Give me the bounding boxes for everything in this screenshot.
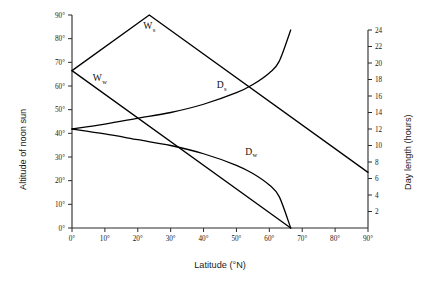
curve-Dw — [72, 129, 291, 228]
chart-svg: 0°10°20°30°40°50°60°70°80°90° 0°10°20°30… — [0, 0, 432, 283]
x-axis-title: Latitude (°N) — [194, 260, 246, 270]
y-axis-right-title: Day length (hours) — [403, 114, 413, 190]
svg-text:40°: 40° — [55, 130, 65, 138]
right-axis-tick-labels: 24681012141618202224 — [375, 27, 383, 217]
svg-text:90°: 90° — [363, 235, 373, 243]
svg-text:16: 16 — [375, 93, 383, 101]
svg-text:80°: 80° — [330, 235, 340, 243]
svg-text:70°: 70° — [55, 59, 65, 67]
svg-text:12: 12 — [375, 126, 383, 134]
svg-text:0°: 0° — [59, 225, 66, 233]
right-axis-ticks — [368, 30, 372, 212]
svg-text:24: 24 — [375, 27, 383, 35]
curve-labels: WsWwDsDw — [93, 20, 258, 158]
svg-text:30°: 30° — [166, 235, 176, 243]
svg-text:10°: 10° — [55, 201, 65, 209]
svg-text:10°: 10° — [100, 235, 110, 243]
bottom-axis-ticks — [72, 228, 368, 232]
left-axis-ticks — [68, 15, 72, 228]
left-axis-tick-labels: 0°10°20°30°40°50°60°70°80°90° — [55, 12, 65, 233]
svg-text:2: 2 — [375, 208, 379, 216]
svg-text:22: 22 — [375, 43, 383, 51]
svg-text:18: 18 — [375, 76, 383, 84]
svg-text:14: 14 — [375, 109, 383, 117]
svg-text:0°: 0° — [69, 235, 76, 243]
svg-text:8: 8 — [375, 159, 379, 167]
svg-text:60°: 60° — [55, 83, 65, 91]
svg-text:6: 6 — [375, 175, 379, 183]
svg-text:20: 20 — [375, 60, 383, 68]
svg-text:50°: 50° — [55, 106, 65, 114]
svg-text:80°: 80° — [55, 35, 65, 43]
y-axis-title: Altitude of noon sun — [18, 109, 28, 190]
svg-text:20°: 20° — [55, 177, 65, 185]
svg-text:60°: 60° — [264, 235, 274, 243]
bottom-axis-tick-labels: 0°10°20°30°40°50°60°70°80°90° — [69, 235, 373, 243]
curve-Ww — [72, 71, 291, 228]
svg-text:90°: 90° — [55, 12, 65, 20]
svg-text:20°: 20° — [133, 235, 143, 243]
curve-label-Dw: Dw — [245, 146, 257, 158]
svg-text:10: 10 — [375, 142, 383, 150]
svg-text:50°: 50° — [231, 235, 241, 243]
svg-text:4: 4 — [375, 192, 379, 200]
svg-text:30°: 30° — [55, 154, 65, 162]
chart-figure: 0°10°20°30°40°50°60°70°80°90° 0°10°20°30… — [0, 0, 432, 283]
svg-text:70°: 70° — [297, 235, 307, 243]
curve-label-Ds: Ds — [217, 79, 227, 91]
svg-text:40°: 40° — [199, 235, 209, 243]
data-curves — [72, 15, 368, 228]
curve-Ws — [72, 15, 368, 172]
curve-label-Ws: Ws — [143, 20, 156, 32]
curve-label-Ww: Ww — [93, 72, 108, 84]
